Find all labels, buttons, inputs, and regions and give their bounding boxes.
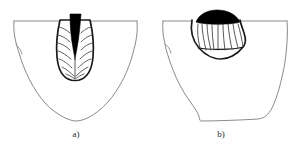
weld-figure-container: a) xyxy=(0,0,298,152)
panel-a-caption: a) xyxy=(73,129,80,139)
panel-a-group: a) xyxy=(14,14,137,139)
panel-b-caption: b) xyxy=(217,129,225,139)
panel-b-group: b) xyxy=(163,10,288,139)
weld-cross-section-figure: a) xyxy=(0,0,298,152)
panel-b-dark-cap xyxy=(196,10,240,24)
